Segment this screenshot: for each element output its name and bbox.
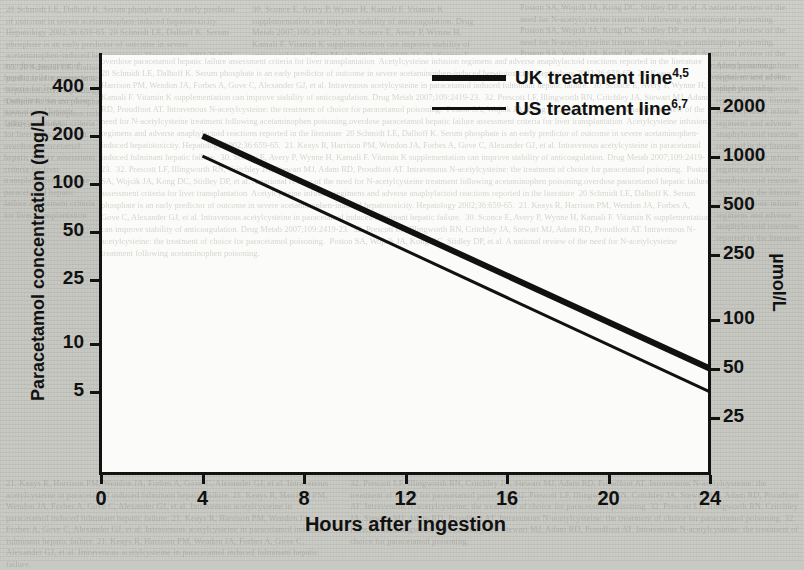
x-tick xyxy=(608,475,611,484)
legend: UK treatment line4,5 US treatment line6,… xyxy=(432,62,700,124)
y-axis-left-title: Paracetamol concentration (mg/L) xyxy=(28,96,49,416)
y-tick-left xyxy=(90,391,99,394)
y-tick-label-right: 500 xyxy=(723,193,793,215)
legend-label-us: US treatment line6,7 xyxy=(515,97,688,120)
x-tick xyxy=(100,475,103,484)
legend-label-uk: UK treatment line4,5 xyxy=(515,66,689,89)
y-tick-label-right: 25 xyxy=(723,405,793,427)
y-tick-left xyxy=(90,87,99,90)
x-tick-label: 12 xyxy=(376,487,436,510)
x-tick xyxy=(506,475,509,484)
uk-treatment-line xyxy=(203,136,711,369)
x-axis-title: Hours after ingestion xyxy=(101,513,710,536)
x-tick xyxy=(303,475,306,484)
y-tick-right xyxy=(711,205,720,208)
legend-swatch-us-line xyxy=(432,107,506,110)
y-tick-left xyxy=(90,183,99,186)
y-tick-left xyxy=(90,343,99,346)
y-tick-right xyxy=(711,254,720,257)
legend-label-us-refs: 6,7 xyxy=(671,97,688,111)
y-tick-right xyxy=(711,319,720,322)
y-tick-right xyxy=(711,107,720,110)
y-tick-label-right: 1000 xyxy=(723,144,793,166)
x-tick xyxy=(405,475,408,484)
y-axis-right-title: µmol/L xyxy=(768,218,789,348)
y-tick-left xyxy=(90,279,99,282)
legend-label-us-text: US treatment line xyxy=(515,98,671,119)
x-tick-label: 8 xyxy=(274,487,334,510)
y-tick-right xyxy=(711,156,720,159)
x-tick xyxy=(202,475,205,484)
legend-label-uk-refs: 4,5 xyxy=(672,66,689,80)
legend-label-uk-text: UK treatment line xyxy=(515,67,672,88)
y-tick-right xyxy=(711,368,720,371)
y-tick-left xyxy=(90,231,99,234)
us-treatment-line xyxy=(203,156,711,392)
x-tick-label: 20 xyxy=(579,487,639,510)
x-tick-label: 16 xyxy=(477,487,537,510)
legend-swatch-uk-line xyxy=(432,75,506,81)
legend-item-us: US treatment line6,7 xyxy=(432,93,700,124)
y-tick-label-right: 2000 xyxy=(723,95,793,117)
y-tick-label-left: 400 xyxy=(6,75,84,97)
x-tick-label: 4 xyxy=(173,487,233,510)
x-tick xyxy=(709,475,712,484)
y-tick-label-right: 50 xyxy=(723,356,793,378)
x-tick-label: 24 xyxy=(680,487,740,510)
y-tick-right xyxy=(711,417,720,420)
legend-item-uk: UK treatment line4,5 xyxy=(432,62,700,93)
x-tick-label: 0 xyxy=(71,487,131,510)
y-tick-left xyxy=(90,135,99,138)
